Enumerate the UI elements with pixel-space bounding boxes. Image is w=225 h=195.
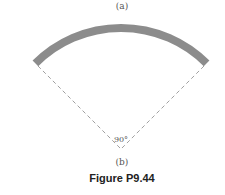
figure-p9-44: (a) 90° (b) Figure P9.44 — [0, 0, 225, 195]
angle-label: 90° — [114, 135, 128, 144]
figure-caption: Figure P9.44 — [89, 172, 154, 184]
arc-diagram — [0, 0, 225, 195]
left-radius-dashed-line — [38, 66, 121, 149]
right-radius-dashed-line — [121, 66, 204, 149]
curved-rod-arc — [35, 28, 206, 63]
label-b: (b) — [116, 157, 129, 167]
